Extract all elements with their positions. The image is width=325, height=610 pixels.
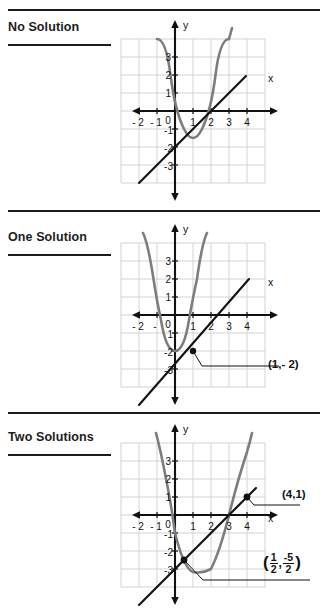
svg-text:1: 1	[190, 117, 196, 128]
line-curve	[139, 76, 246, 183]
svg-text:3: 3	[226, 521, 232, 532]
fraction-numerator: 1	[270, 552, 278, 563]
svg-text:3: 3	[226, 321, 232, 332]
graph-no-solution: x y - 2 - 1 0 1 2 3 4 3 2 1 -1	[0, 0, 325, 210]
svg-text:2: 2	[208, 117, 214, 128]
svg-text:-2: -2	[164, 143, 173, 154]
svg-text:4: 4	[244, 321, 250, 332]
svg-text:-1: -1	[164, 529, 173, 540]
svg-text:-: -	[153, 321, 156, 332]
fraction-one-half: 12	[270, 552, 278, 574]
panel-no-solution: No Solution	[0, 0, 325, 210]
svg-text:-3: -3	[164, 161, 173, 172]
svg-text:-2: -2	[164, 347, 173, 358]
comma-separator: ,	[279, 556, 282, 570]
svg-text:1: 1	[165, 88, 171, 99]
fraction-denominator: 2	[270, 563, 278, 575]
leader-line-tangent	[193, 351, 279, 366]
svg-text:3: 3	[165, 456, 171, 467]
svg-text:2: 2	[208, 521, 214, 532]
axes	[132, 224, 278, 405]
svg-text:2: 2	[165, 474, 171, 485]
svg-text:3: 3	[226, 117, 232, 128]
svg-text:2: 2	[165, 274, 171, 285]
x-axis-label: x	[268, 276, 274, 288]
line-curve	[139, 488, 256, 605]
svg-text:1: 1	[190, 321, 196, 332]
worksheet-page: No Solution	[0, 0, 325, 610]
y-axis-label: y	[183, 19, 189, 31]
svg-text:4: 4	[244, 521, 250, 532]
svg-text:-2: -2	[164, 547, 173, 558]
open-paren: (	[263, 553, 269, 572]
point-label-lower-intersection: (12,-52)	[263, 552, 301, 574]
axes	[132, 20, 278, 201]
x-tick-labels: - 2 - 1 0 1 2 3 4	[132, 115, 250, 128]
svg-text:1: 1	[190, 521, 196, 532]
svg-text:4: 4	[244, 117, 250, 128]
svg-text:- 2: - 2	[132, 321, 144, 332]
svg-text:2: 2	[208, 321, 214, 332]
fraction-denominator: 2	[283, 563, 294, 575]
svg-text:- 2: - 2	[132, 117, 144, 128]
svg-text:1: 1	[165, 492, 171, 503]
svg-text:-3: -3	[164, 565, 173, 576]
point-label-tangent: (1,- 2)	[268, 358, 299, 370]
svg-text:1: 1	[167, 329, 173, 340]
y-axis-label: y	[183, 223, 189, 235]
close-paren: )	[295, 553, 301, 572]
x-axis-label: x	[268, 512, 274, 524]
axes	[132, 424, 278, 605]
svg-text:1: 1	[165, 292, 171, 303]
graph-one-solution: x y - 2 - 0 1 2 3 4 3 2 1 1 -2 -3	[0, 210, 325, 412]
fraction-neg-five-halves: -52	[283, 552, 294, 574]
graph-two-solutions: x y - 2 - 1 0 1 2 3 4 3 2 1 -1 -2	[0, 412, 325, 610]
y-axis-label: y	[183, 423, 189, 435]
svg-text:- 1: - 1	[150, 117, 162, 128]
x-axis-label: x	[268, 72, 274, 84]
x-tick-labels: - 2 - 0 1 2 3 4	[132, 319, 250, 332]
svg-text:-3: -3	[164, 365, 173, 376]
svg-text:2: 2	[165, 70, 171, 81]
panel-one-solution: One Solution	[0, 210, 325, 412]
svg-text:3: 3	[165, 256, 171, 267]
x-tick-labels: - 2 - 1 0 1 2 3 4	[132, 519, 250, 532]
svg-text:3: 3	[165, 52, 171, 63]
svg-text:-1: -1	[164, 125, 173, 136]
svg-text:- 2: - 2	[132, 521, 144, 532]
point-label-upper-intersection: (4,1)	[282, 488, 306, 500]
svg-text:- 1: - 1	[150, 521, 162, 532]
panel-two-solutions: Two Solutions	[0, 412, 325, 610]
fraction-numerator: -5	[283, 552, 294, 563]
